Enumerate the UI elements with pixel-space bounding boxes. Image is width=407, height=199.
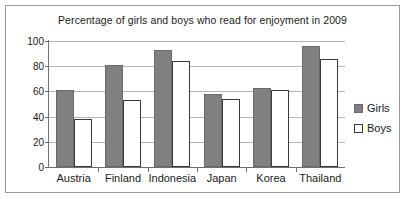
bar-thailand-girls bbox=[302, 46, 320, 167]
x-label-japan: Japan bbox=[197, 172, 246, 184]
legend-label-boys: Boys bbox=[367, 122, 391, 134]
bar-group-thailand bbox=[296, 41, 345, 167]
bar-group-indonesia bbox=[148, 41, 197, 167]
y-tick-label-60: 60 bbox=[10, 86, 44, 97]
legend-swatch-boys bbox=[354, 124, 363, 133]
x-label-korea: Korea bbox=[246, 172, 295, 184]
legend-swatch-girls bbox=[354, 104, 363, 113]
x-label-austria: Austria bbox=[49, 172, 98, 184]
legend-label-girls: Girls bbox=[367, 102, 390, 114]
bar-japan-girls bbox=[204, 94, 222, 167]
x-tick-4 bbox=[246, 167, 247, 172]
x-tick-5 bbox=[296, 167, 297, 172]
x-tick-2 bbox=[148, 167, 149, 172]
bar-finland-girls bbox=[105, 65, 123, 167]
bar-japan-boys bbox=[222, 99, 240, 167]
x-tick-3 bbox=[197, 167, 198, 172]
x-label-indonesia: Indonesia bbox=[148, 172, 197, 184]
y-tick-label-100: 100 bbox=[10, 36, 44, 47]
chart-title: Percentage of girls and boys who read fo… bbox=[6, 14, 399, 26]
y-axis-tick-labels: 020406080100 bbox=[6, 41, 44, 167]
bar-group-austria bbox=[49, 41, 98, 167]
y-tick-label-0: 0 bbox=[10, 162, 44, 173]
plot-area bbox=[49, 41, 345, 167]
chart-frame: Percentage of girls and boys who read fo… bbox=[5, 5, 400, 193]
bar-korea-girls bbox=[253, 88, 271, 167]
y-tick-label-40: 40 bbox=[10, 111, 44, 122]
bar-thailand-boys bbox=[320, 59, 338, 167]
bar-austria-girls bbox=[56, 90, 74, 167]
bar-indonesia-boys bbox=[172, 61, 190, 167]
y-tick-label-80: 80 bbox=[10, 61, 44, 72]
y-tick-label-20: 20 bbox=[10, 136, 44, 147]
bar-finland-boys bbox=[123, 100, 141, 167]
x-axis-category-labels: AustriaFinlandIndonesiaJapanKoreaThailan… bbox=[49, 172, 345, 190]
bar-group-finland bbox=[98, 41, 147, 167]
bar-group-japan bbox=[197, 41, 246, 167]
bar-korea-boys bbox=[271, 90, 289, 167]
x-tick-1 bbox=[98, 167, 99, 172]
legend-item-girls: Girls bbox=[354, 102, 402, 114]
legend-item-boys: Boys bbox=[354, 122, 402, 134]
chart-legend: GirlsBoys bbox=[354, 102, 402, 142]
x-label-finland: Finland bbox=[98, 172, 147, 184]
bar-austria-boys bbox=[74, 119, 92, 167]
bar-indonesia-girls bbox=[154, 50, 172, 167]
bar-group-korea bbox=[246, 41, 295, 167]
x-label-thailand: Thailand bbox=[296, 172, 345, 184]
